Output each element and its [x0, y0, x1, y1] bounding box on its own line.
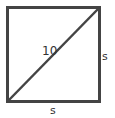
diagonal-label: 10: [42, 44, 57, 58]
bottom-side-label: s: [50, 104, 56, 117]
right-side-label: s: [102, 50, 108, 63]
square-diagram: 10 s s: [0, 0, 115, 118]
